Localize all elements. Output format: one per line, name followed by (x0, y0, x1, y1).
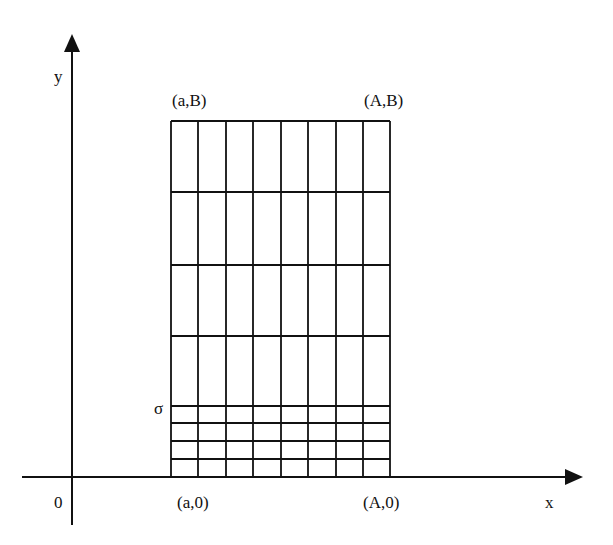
x-axis-arrow-icon (565, 469, 583, 485)
y-axis-arrow-icon (64, 34, 80, 52)
mesh-grid (171, 121, 390, 477)
corner-label-top-right: (A,B) (364, 91, 403, 110)
y-axis-label: y (54, 67, 63, 86)
corner-label-bottom-right: (A,0) (363, 493, 399, 512)
diagram-canvas: y x 0 (a,B) (A,B) (a,0) (A,0) σ (0, 0, 613, 545)
corner-label-top-left: (a,B) (172, 91, 206, 110)
corner-label-bottom-left: (a,0) (177, 493, 209, 512)
sigma-label: σ (154, 399, 163, 418)
x-axis-label: x (545, 493, 554, 512)
origin-label: 0 (54, 493, 63, 512)
